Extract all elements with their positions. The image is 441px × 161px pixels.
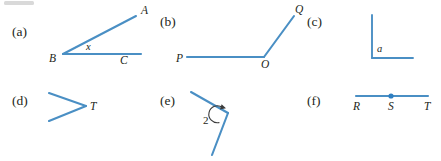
panel-f-label-s: S: [388, 100, 394, 112]
panel-a: (a) A B C x: [12, 4, 149, 66]
panel-e-arc-arrowhead: [220, 104, 226, 109]
panel-b: (b) P O Q: [160, 3, 304, 70]
panel-d: (d) T: [12, 93, 98, 121]
panel-d-ray-upper: [49, 93, 86, 106]
panel-e-angle-number: 2: [203, 114, 209, 126]
panel-e-ray-lower: [212, 113, 228, 155]
panel-c: (c) a: [307, 14, 413, 58]
panel-a-label-c: C: [120, 54, 128, 66]
panel-d-tag: (d): [12, 93, 28, 108]
panel-f-label-t: T: [424, 100, 432, 112]
panel-f-tag: (f): [307, 93, 321, 108]
geometry-figure-canvas: (a) A B C x (b) P O Q (c): [0, 0, 441, 161]
panel-b-label-q: Q: [295, 3, 304, 15]
panel-a-tag: (a): [12, 24, 27, 39]
panel-d-ray-lower: [49, 106, 86, 121]
panel-e-tag: (e): [160, 93, 175, 108]
geometry-figure-sheet: (a) A B C x (b) P O Q (c): [0, 0, 441, 161]
panel-b-tag: (b): [160, 14, 176, 29]
panel-d-label-t: T: [90, 100, 98, 112]
panel-a-angle-variable: x: [85, 41, 91, 52]
panel-b-label-p: P: [175, 52, 183, 64]
panel-e: (e) 2: [160, 92, 228, 155]
panel-f: (f) R S T: [307, 93, 432, 112]
panel-a-label-a: A: [140, 4, 149, 16]
panel-c-angle-variable: a: [377, 43, 382, 54]
panel-a-label-b: B: [49, 52, 56, 64]
scan-smudge-artifact: [4, 1, 34, 5]
panel-a-ray-ba: [63, 16, 136, 54]
panel-b-ray-oq: [264, 16, 294, 57]
panel-c-tag: (c): [307, 14, 322, 29]
panel-f-label-r: R: [352, 100, 360, 112]
panel-b-label-o: O: [261, 58, 270, 70]
panel-f-midpoint-dot: [388, 93, 393, 98]
